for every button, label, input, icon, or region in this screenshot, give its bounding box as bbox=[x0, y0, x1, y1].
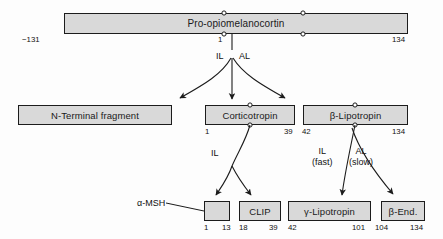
tick-marker bbox=[301, 32, 305, 36]
arrow-corticotropin-to-alpha-msh bbox=[216, 166, 232, 195]
arrow-popmc-to-beta-lipotropin bbox=[233, 58, 285, 98]
arrow-popmc-to-n-terminal bbox=[180, 58, 231, 98]
tick-marker bbox=[301, 11, 305, 15]
tick-marker bbox=[353, 103, 357, 107]
arrow-corticotropin-to-clip bbox=[232, 166, 251, 195]
tick-marker bbox=[248, 103, 252, 107]
connector-layer bbox=[0, 0, 443, 239]
popmc-processing-diagram: Pro-opiomelanocortin −131 1 134 N-Termin… bbox=[0, 0, 443, 239]
leader-line-alpha-msh bbox=[166, 203, 204, 211]
arrow-corticotropin-stem bbox=[232, 125, 250, 166]
arrow-beta-lipotropin-to-gamma-lipotropin bbox=[342, 125, 355, 195]
tick-marker bbox=[222, 32, 226, 36]
arrow-beta-lipotropin-to-beta-endorphin bbox=[352, 128, 393, 194]
tick-marker bbox=[222, 11, 226, 15]
